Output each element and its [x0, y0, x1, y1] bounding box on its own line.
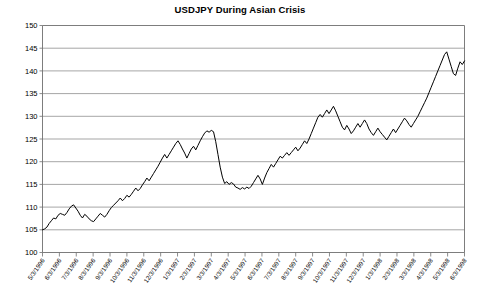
x-axis-ticks	[43, 253, 465, 257]
y-tick-label: 120	[25, 157, 38, 166]
x-tick-label: 6/3/1998	[448, 257, 468, 282]
y-axis-ticks: 100105110115120125130135140145150	[25, 21, 43, 257]
y-tick-label: 110	[26, 203, 38, 212]
y-tick-label: 105	[25, 225, 38, 234]
y-tick-label: 135	[25, 89, 38, 98]
y-tick-label: 100	[25, 248, 38, 257]
chart-container: USDJPY During Asian Crisis 1001051101151…	[0, 0, 480, 304]
y-tick-label: 130	[25, 112, 38, 121]
y-tick-label: 145	[25, 44, 38, 53]
y-tick-label: 125	[25, 135, 38, 144]
chart-plot: 100105110115120125130135140145150 5/3/19…	[0, 0, 480, 304]
y-tick-label: 150	[25, 21, 38, 30]
y-tick-label: 140	[25, 67, 38, 76]
data-series	[43, 52, 465, 230]
y-tick-label: 115	[26, 180, 38, 189]
series-line-usdjpy	[43, 52, 465, 230]
gridlines	[43, 48, 465, 230]
x-axis-labels: 5/3/19966/3/19967/3/19968/3/19969/3/1996…	[26, 257, 468, 284]
